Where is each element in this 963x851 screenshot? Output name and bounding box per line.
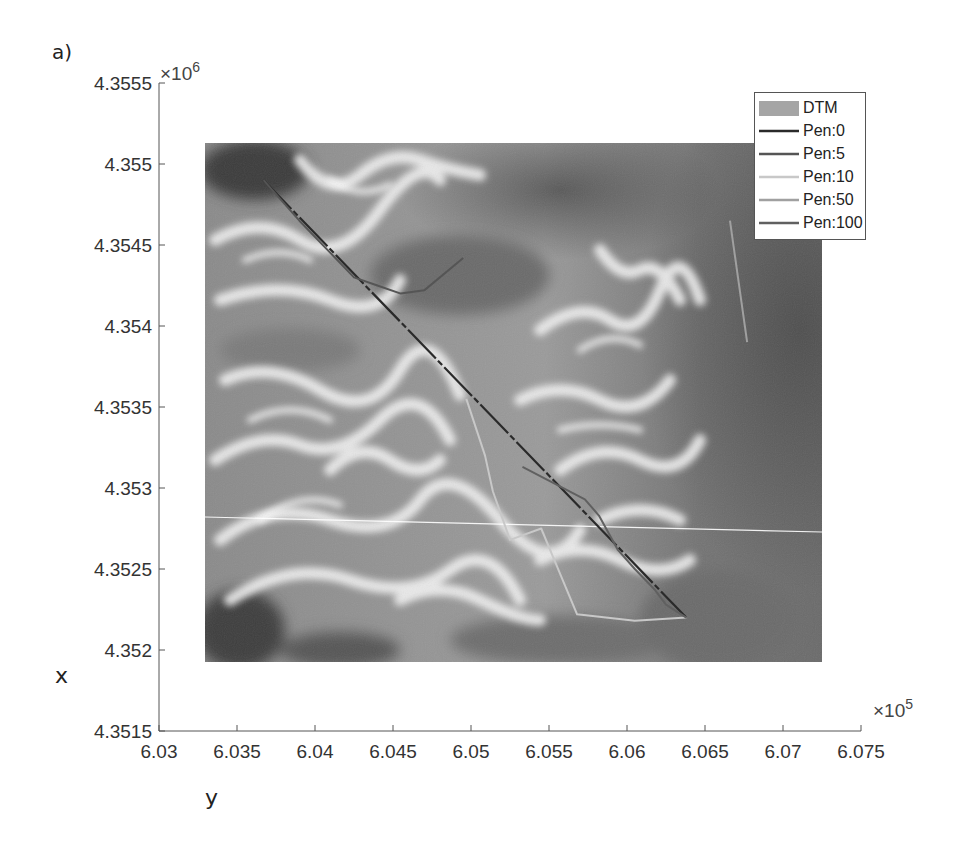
y-tick-label: 4.3535 (94, 397, 152, 418)
y-exponent-label: ×106 (160, 59, 200, 84)
dtm-swatch (759, 101, 799, 116)
legend-item-pen5: Pen:5 (759, 144, 845, 164)
x-tick-label: 6.05 (453, 741, 490, 762)
legend-label: DTM (803, 99, 838, 117)
legend-item-pen100: Pen:100 (759, 213, 863, 233)
x-tick-label: 6.075 (837, 741, 885, 762)
legend-item-pen0: Pen:0 (759, 121, 845, 141)
pen100-swatch (759, 220, 799, 226)
x-tick-label: 6.035 (213, 741, 261, 762)
y-tick-label: 4.3555 (94, 73, 152, 94)
legend-item-dtm: DTM (759, 98, 838, 118)
x-tick-label: 6.03 (141, 741, 178, 762)
pen10-swatch (759, 174, 799, 180)
x-tick-label: 6.07 (765, 741, 802, 762)
y-tick-label: 4.353 (104, 478, 152, 499)
y-tick-label: 4.3545 (94, 235, 152, 256)
x-tick-label: 6.055 (525, 741, 573, 762)
pen5-swatch (759, 151, 799, 157)
legend-item-pen50: Pen:50 (759, 190, 854, 210)
x-tick-label: 6.04 (297, 741, 334, 762)
x-tick-label: 6.06 (609, 741, 646, 762)
y-tick-label: 4.354 (104, 316, 152, 337)
legend-item-pen10: Pen:10 (759, 167, 854, 187)
legend-label: Pen:5 (803, 145, 845, 163)
y-axis-ticks: 4.35154.3524.35254.3534.35354.3544.35454… (94, 73, 165, 742)
pen0-swatch (759, 128, 799, 134)
x-tick-label: 6.045 (369, 741, 417, 762)
y-tick-label: 4.355 (104, 154, 152, 175)
legend-label: Pen:10 (803, 168, 854, 186)
legend-label: Pen:0 (803, 122, 845, 140)
y-tick-label: 4.3515 (94, 721, 152, 742)
x-exponent-label: ×105 (873, 696, 913, 721)
figure: a) x y (0, 0, 963, 851)
y-tick-label: 4.352 (104, 640, 152, 661)
x-tick-label: 6.065 (681, 741, 729, 762)
pen50-swatch (759, 197, 799, 203)
legend: DTM Pen:0 Pen:5 Pen:10 Pen:50 Pen:100 (754, 92, 866, 240)
y-tick-label: 4.3525 (94, 559, 152, 580)
legend-label: Pen:50 (803, 191, 854, 209)
legend-label: Pen:100 (803, 214, 863, 232)
